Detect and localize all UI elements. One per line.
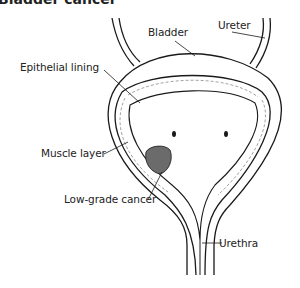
- label-urethra: Urethra: [219, 237, 258, 249]
- label-ureter: Ureter: [218, 19, 251, 31]
- left-ureter-outer: [112, 18, 134, 66]
- left-ureter-inner: [119, 18, 140, 62]
- label-bladder: Bladder: [148, 26, 188, 38]
- label-muscle-layer: Muscle layer: [41, 147, 106, 159]
- label-low-grade-cancer: Low-grade cancer: [64, 193, 156, 205]
- bladder-cancer-diagram: Bladder cancer: [0, 0, 300, 288]
- tumor: [146, 146, 172, 174]
- label-epithelial-lining: Epithelial lining: [20, 61, 99, 73]
